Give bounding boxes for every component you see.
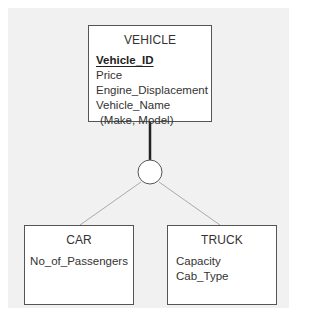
attribute-key-vehicle-id: Vehicle_ID (96, 53, 211, 68)
attribute-make-model: (Make, Model) (96, 113, 211, 128)
attribute-cab-type: Cab_Type (176, 269, 276, 284)
attribute-no-of-passengers: No_of_Passengers (25, 254, 133, 269)
attribute-list: No_of_Passengers (25, 254, 133, 269)
entity-vehicle: VEHICLE Vehicle_ID Price Engine_Displace… (88, 25, 212, 122)
entity-truck: TRUCK Capacity Cab_Type (167, 225, 277, 305)
entity-title: VEHICLE (89, 33, 211, 47)
truck-link (159, 182, 220, 225)
entity-car: CAR No_of_Passengers (24, 225, 134, 305)
car-link (80, 182, 141, 225)
attribute-price: Price (96, 68, 211, 83)
specialization-circle-icon (138, 160, 162, 184)
entity-title: CAR (25, 233, 133, 247)
attribute-engine-displacement: Engine_Displacement (96, 83, 211, 98)
attribute-capacity: Capacity (176, 254, 276, 269)
attribute-list: Vehicle_ID Price Engine_Displacement Veh… (96, 53, 211, 128)
attribute-list: Capacity Cab_Type (176, 254, 276, 284)
attribute-vehicle-name: Vehicle_Name (96, 98, 211, 113)
entity-title: TRUCK (168, 233, 276, 247)
